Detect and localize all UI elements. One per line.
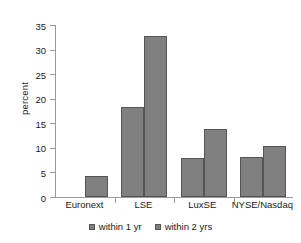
bar — [204, 129, 227, 197]
x-axis-labels: EuronextLSELuxSENYSE/Nasdaq — [55, 199, 293, 215]
x-axis-tick-label: Euronext — [55, 199, 114, 215]
bar — [144, 36, 167, 197]
bar — [240, 157, 263, 197]
bar-slot — [181, 25, 204, 197]
y-axis-tick-label: 25 — [35, 69, 46, 80]
bar-group — [174, 25, 234, 197]
y-axis-tick-label: 5 — [41, 167, 46, 178]
y-axis-tick-label: 15 — [35, 118, 46, 129]
y-axis-title: percent — [18, 0, 32, 197]
y-axis-tick-label: 20 — [35, 94, 46, 105]
bar — [181, 158, 204, 197]
plot-area: 05101520253035 — [55, 25, 293, 197]
legend-swatch-icon — [155, 224, 161, 230]
bar-group — [115, 25, 175, 197]
chart-legend: within 1 yrwithin 2 yrs — [0, 221, 301, 232]
y-axis-tick-label: 10 — [35, 143, 46, 154]
bar-chart: percent 05101520253035 EuronextLSELuxSEN… — [0, 0, 301, 243]
y-axis-tick-label: 0 — [41, 192, 46, 203]
bar-slot — [85, 25, 108, 197]
bar — [263, 146, 286, 197]
legend-label: within 2 yrs — [165, 221, 213, 232]
y-axis-title-text: percent — [20, 82, 31, 115]
bar-slot — [204, 25, 227, 197]
y-axis-tick: 0 — [50, 197, 55, 198]
bar-groups — [55, 25, 293, 197]
x-axis-tick-label: LSE — [114, 199, 173, 215]
bar-slot — [62, 25, 85, 197]
bar-slot — [240, 25, 263, 197]
bar-group — [234, 25, 294, 197]
bar-slot — [121, 25, 144, 197]
legend-item: within 1 yr — [89, 221, 142, 232]
bar — [121, 107, 144, 197]
bar-group — [55, 25, 115, 197]
bar — [85, 176, 108, 197]
x-axis-tick-label: LuxSE — [173, 199, 232, 215]
bar-slot — [263, 25, 286, 197]
legend-item: within 2 yrs — [155, 221, 213, 232]
x-axis-tick-label: NYSE/Nasdaq — [232, 199, 293, 215]
bar-slot — [144, 25, 167, 197]
legend-swatch-icon — [89, 224, 95, 230]
y-axis-tick-label: 35 — [35, 20, 46, 31]
legend-label: within 1 yr — [99, 221, 142, 232]
y-axis-tick-label: 30 — [35, 45, 46, 56]
